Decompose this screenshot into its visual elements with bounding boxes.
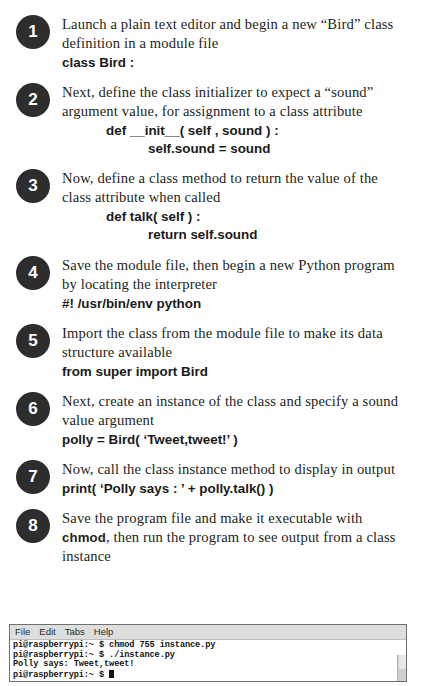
- code-line: return self.sound: [62, 226, 409, 243]
- terminal-screen[interactable]: pi@raspberrypi:~ $ chmod 755 instance.py…: [10, 640, 406, 681]
- step-description: Next, create an instance of the class an…: [62, 392, 409, 430]
- step-body: Now, define a class method to return the…: [50, 168, 409, 243]
- step-body: Save the module file, then begin a new P…: [50, 255, 409, 312]
- step-item: 5Import the class from the module file t…: [16, 323, 409, 380]
- tutorial-page: 1Launch a plain text editor and begin a …: [0, 0, 421, 686]
- step-description: Now, call the class instance method to d…: [62, 460, 409, 479]
- terminal-menu-tabs[interactable]: Tabs: [65, 627, 85, 637]
- terminal-scrollbar[interactable]: [397, 655, 406, 681]
- step-description: Save the module file, then begin a new P…: [62, 256, 409, 294]
- step-body: Import the class from the module file to…: [50, 323, 409, 380]
- terminal-menu-file[interactable]: File: [15, 627, 30, 637]
- step-item: 2Next, define the class initializer to e…: [16, 82, 409, 157]
- step-number-badge: 8: [16, 509, 50, 543]
- step-number-badge: 5: [16, 324, 50, 358]
- terminal-cursor: [109, 670, 114, 678]
- code-line: from super import Bird: [62, 363, 409, 380]
- step-description-pre: Save the program file and make it execut…: [62, 510, 363, 526]
- step-item: 8Save the program file and make it execu…: [16, 508, 409, 566]
- terminal-menubar: FileEditTabsHelp: [10, 625, 406, 640]
- step-description: Save the program file and make it execut…: [62, 509, 409, 566]
- step-body: Launch a plain text editor and begin a n…: [50, 14, 409, 71]
- step-number-badge: 2: [16, 83, 50, 117]
- step-item: 3Now, define a class method to return th…: [16, 168, 409, 243]
- inline-command-name: chmod: [62, 530, 106, 545]
- step-body: Now, call the class instance method to d…: [50, 459, 409, 497]
- code-line: class Bird :: [62, 54, 409, 71]
- terminal-scrollbar-thumb[interactable]: [399, 655, 406, 669]
- code-line: self.sound = sound: [62, 140, 409, 157]
- terminal-menu-help[interactable]: Help: [94, 627, 114, 637]
- terminal-window: FileEditTabsHelp pi@raspberrypi:~ $ chmo…: [9, 624, 407, 682]
- terminal-line: Polly says: Tweet,tweet!: [13, 660, 406, 670]
- step-item: 4Save the module file, then begin a new …: [16, 255, 409, 312]
- step-body: Save the program file and make it execut…: [50, 508, 409, 566]
- step-number-badge: 6: [16, 392, 50, 426]
- code-line: def talk( self ) :: [62, 208, 409, 225]
- code-line: #! /usr/bin/env python: [62, 295, 409, 312]
- code-line: def __init__( self , sound ) :: [62, 122, 409, 139]
- step-description: Import the class from the module file to…: [62, 324, 409, 362]
- step-description: Next, define the class initializer to ex…: [62, 83, 409, 121]
- terminal-menu-edit[interactable]: Edit: [39, 627, 55, 637]
- code-line: polly = Bird( ‘Tweet,tweet!’ ): [62, 431, 409, 448]
- step-description: Now, define a class method to return the…: [62, 169, 409, 207]
- step-number-badge: 4: [16, 256, 50, 290]
- step-number-badge: 3: [16, 169, 50, 203]
- step-number-badge: 1: [16, 15, 50, 49]
- step-item: 1Launch a plain text editor and begin a …: [16, 14, 409, 71]
- step-item: 6Next, create an instance of the class a…: [16, 391, 409, 448]
- step-body: Next, create an instance of the class an…: [50, 391, 409, 448]
- step-body: Next, define the class initializer to ex…: [50, 82, 409, 157]
- step-description-post: , then run the program to see output fro…: [62, 529, 396, 564]
- steps-list: 1Launch a plain text editor and begin a …: [0, 0, 421, 566]
- step-description: Launch a plain text editor and begin a n…: [62, 15, 409, 53]
- step-item: 7Now, call the class instance method to …: [16, 459, 409, 497]
- terminal-prompt-line: pi@raspberrypi:~ $: [13, 670, 406, 681]
- step-number-badge: 7: [16, 460, 50, 494]
- code-line: print( ‘Polly says : ’ + polly.talk() ): [62, 480, 409, 497]
- terminal-prompt: pi@raspberrypi:~ $: [13, 670, 109, 680]
